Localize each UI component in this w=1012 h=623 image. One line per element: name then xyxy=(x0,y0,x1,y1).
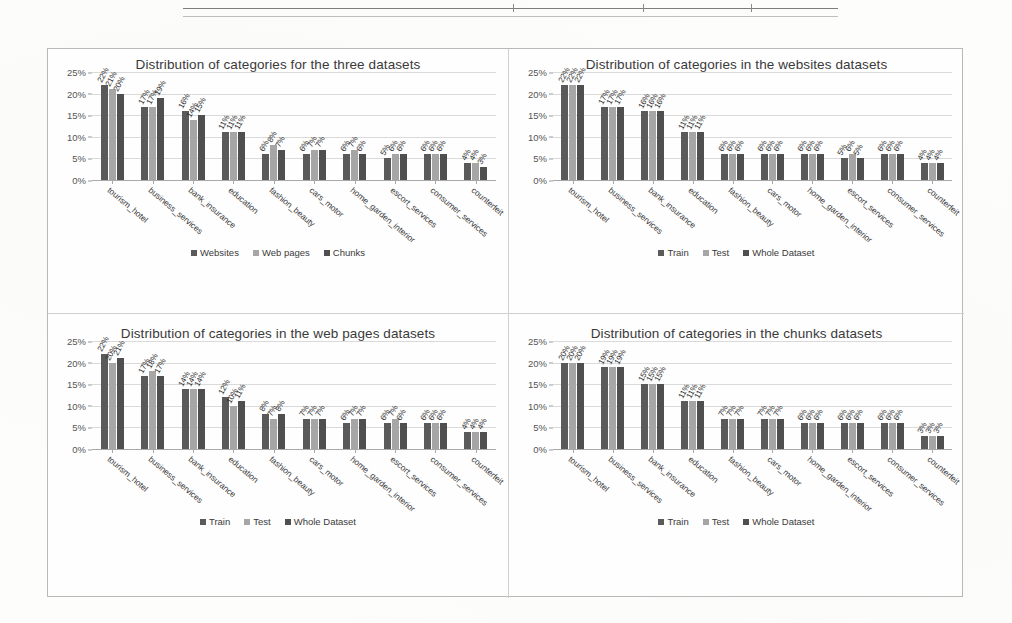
x-axis-tick: business_services xyxy=(132,181,172,245)
x-axis-tick: counterfeit xyxy=(912,450,952,514)
bar: 5% xyxy=(841,158,848,180)
legend-item[interactable]: Websites xyxy=(191,247,239,258)
legend-item[interactable]: Whole Dataset xyxy=(743,516,814,527)
bar-group: 5%6%5% xyxy=(832,72,872,180)
legend-item[interactable]: Whole Dataset xyxy=(743,247,814,258)
bar: 15% xyxy=(198,115,205,180)
bar: 17% xyxy=(617,107,624,180)
bar: 6% xyxy=(801,154,808,180)
legend-item[interactable]: Train xyxy=(200,516,230,527)
table-border-fragment xyxy=(183,4,838,18)
x-axis-tick-mark xyxy=(613,450,614,453)
legend-item[interactable]: Chunks xyxy=(324,247,365,258)
bar: 14% xyxy=(182,389,189,449)
bar: 11% xyxy=(681,132,688,180)
bar-group: 14%14%14% xyxy=(173,341,213,449)
bar: 17% xyxy=(157,376,164,449)
x-axis-tick-mark xyxy=(193,181,194,184)
bar: 20% xyxy=(561,363,568,449)
bar: 7% xyxy=(311,150,318,180)
x-axis-tick-mark xyxy=(112,181,113,184)
legend-item[interactable]: Web pages xyxy=(253,247,310,258)
bar-group: 16%14%15% xyxy=(173,72,213,180)
x-axis-tick: escort_services xyxy=(832,181,872,245)
bar: 20% xyxy=(569,363,576,449)
x-axis-tick: home_garden_interior xyxy=(334,181,374,245)
x-axis-tick: cars_motor xyxy=(294,450,334,514)
bar: 7% xyxy=(351,150,358,180)
bar-group: 22%22%22% xyxy=(553,72,593,180)
bar: 3% xyxy=(937,436,944,449)
bar: 6% xyxy=(809,154,816,180)
bar-group: 4%4%4% xyxy=(456,341,496,449)
bar: 17% xyxy=(141,107,148,180)
x-axis-tick-mark xyxy=(153,450,154,453)
bar: 10% xyxy=(230,406,237,449)
bar-group: 6%6%6% xyxy=(415,72,455,180)
bar-group: 6%6%6% xyxy=(753,72,793,180)
x-axis-tick-mark xyxy=(812,450,813,453)
x-axis-tick: cars_motor xyxy=(753,450,793,514)
bar-group: 3%3%3% xyxy=(912,341,952,449)
bar: 6% xyxy=(897,423,904,449)
legend-label: Chunks xyxy=(333,247,365,258)
y-axis-tick-label: 25% xyxy=(67,336,86,347)
chart-panel-chunks-datasets: Distribution of categories in the chunks… xyxy=(509,314,964,598)
bar-value-label: 19% xyxy=(152,79,167,97)
bar: 6% xyxy=(881,423,888,449)
bar: 7% xyxy=(761,419,768,449)
x-axis-tick-mark xyxy=(932,181,933,184)
bar-group: 16%16%16% xyxy=(633,72,673,180)
y-axis-tick-label: 5% xyxy=(533,153,547,164)
x-axis-tick-mark xyxy=(355,450,356,453)
bar-group: 6%6%6% xyxy=(713,72,753,180)
table-column-divider xyxy=(643,4,644,12)
x-axis-tick-mark xyxy=(233,181,234,184)
x-axis-tick-mark xyxy=(653,450,654,453)
x-axis-tick-mark xyxy=(435,181,436,184)
x-axis-tick-mark xyxy=(573,450,574,453)
x-axis-tick-label: counterfeit xyxy=(469,454,505,486)
legend-swatch-icon xyxy=(658,519,664,525)
bar: 14% xyxy=(198,389,205,449)
bar: 6% xyxy=(262,154,269,180)
bar-group: 7%7%7% xyxy=(753,341,793,449)
bar-group: 12%10%11% xyxy=(213,341,253,449)
bar: 6% xyxy=(424,423,431,449)
bar: 7% xyxy=(303,419,310,449)
legend-item[interactable]: Test xyxy=(703,247,729,258)
y-axis-tick-label: 25% xyxy=(528,336,547,347)
bar-group: 17%18%17% xyxy=(132,341,172,449)
bar-group: 6%7%6% xyxy=(375,341,415,449)
bar: 6% xyxy=(392,154,399,180)
bar: 4% xyxy=(464,163,471,180)
bar-group: 11%11%11% xyxy=(213,72,253,180)
bar-group: 11%11%11% xyxy=(673,341,713,449)
chart-panel-three-datasets: Distribution of categories for the three… xyxy=(48,49,508,313)
bar: 11% xyxy=(230,132,237,180)
legend-label: Train xyxy=(667,516,688,527)
legend-item[interactable]: Test xyxy=(244,516,270,527)
legend-item[interactable]: Test xyxy=(703,516,729,527)
bar: 4% xyxy=(480,432,487,449)
bar-group: 6%7%7% xyxy=(294,72,334,180)
bar: 22% xyxy=(561,85,568,180)
legend-item[interactable]: Whole Dataset xyxy=(285,516,356,527)
bar: 20% xyxy=(577,363,584,449)
x-axis-tick: escort_services xyxy=(832,450,872,514)
y-axis-tick-label: 5% xyxy=(72,422,86,433)
chart-title: Distribution of categories in the chunks… xyxy=(509,326,964,341)
chart-title: Distribution of categories in the web pa… xyxy=(48,326,508,341)
legend-item[interactable]: Train xyxy=(658,516,688,527)
bar: 7% xyxy=(392,419,399,449)
x-axis-tick: cars_motor xyxy=(753,181,793,245)
x-axis-tick: bank_insurance xyxy=(173,450,213,514)
bar: 4% xyxy=(472,163,479,180)
x-axis-tick-mark xyxy=(233,450,234,453)
y-axis-tick-label: 20% xyxy=(528,88,547,99)
bar: 6% xyxy=(769,154,776,180)
bar-value-label: 15% xyxy=(193,96,208,114)
legend-item[interactable]: Train xyxy=(658,247,688,258)
x-axis-tick: fashion_beauty xyxy=(713,450,753,514)
bar: 14% xyxy=(190,120,197,180)
